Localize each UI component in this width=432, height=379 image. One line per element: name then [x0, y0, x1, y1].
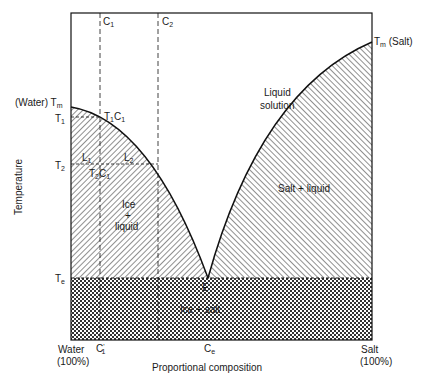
ice-label-3: liquid: [115, 221, 138, 232]
ice-label-2: +: [125, 210, 131, 221]
c2-top-label: C2: [162, 16, 173, 28]
te-label: Te: [55, 273, 65, 285]
c1-top-label: C1: [103, 16, 114, 28]
liquid-label-1: Liquid: [264, 87, 291, 98]
t2-label: T2: [55, 160, 65, 172]
phase-diagram: C1 C2 (Water) Tm T1 T2 Te Temperature T1…: [0, 0, 432, 379]
salt-liquid-region: [208, 42, 372, 278]
y-axis-title: Temperature: [13, 158, 24, 215]
ice-salt-label: Ice + salt: [180, 304, 221, 315]
liquid-label-2: solution: [260, 100, 294, 111]
t1c1-label: T1C1: [104, 111, 125, 123]
tm-salt-label: Tm (Salt): [374, 36, 413, 48]
salt-label-1: Salt: [361, 344, 378, 355]
salt-liquid-label: Salt + liquid: [278, 183, 330, 194]
ice-label-1: Ice: [122, 199, 136, 210]
ce-label: Ce: [204, 343, 215, 355]
eutectic-point-label: E: [202, 282, 209, 293]
salt-label-2: (100%): [360, 356, 392, 367]
tm-water-label: (Water) Tm: [15, 97, 63, 109]
x-axis-title: Proportional composition: [152, 362, 262, 373]
water-label-1: Water: [58, 344, 85, 355]
c1-prime-label: C'1: [96, 343, 106, 355]
t1-label: T1: [55, 113, 65, 125]
water-label-2: (100%): [57, 356, 89, 367]
ice-liquid-region: [71, 107, 208, 278]
ice-salt-region: [71, 278, 372, 340]
